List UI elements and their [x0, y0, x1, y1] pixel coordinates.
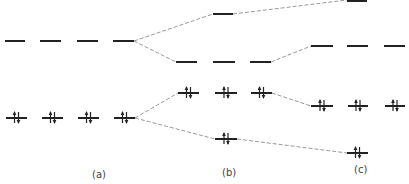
connector-line	[134, 41, 176, 62]
connector-line	[134, 14, 213, 41]
column-label-b: (b)	[222, 167, 236, 178]
arrow-head-icon	[391, 99, 395, 103]
connector-line	[272, 93, 311, 106]
connector-line	[271, 46, 311, 62]
arrow-head-icon	[121, 111, 125, 115]
arrow-head-icon	[358, 108, 362, 112]
arrow-head-icon	[125, 120, 129, 124]
connector-line	[233, 0, 347, 14]
arrow-head-icon	[222, 86, 226, 90]
arrow-head-icon	[13, 111, 17, 115]
arrow-head-icon	[354, 146, 358, 150]
electron-pairs	[13, 86, 399, 159]
arrow-head-icon	[226, 95, 230, 99]
arrow-head-icon	[395, 108, 399, 112]
column-label-c: (c)	[354, 164, 367, 175]
arrow-head-icon	[89, 120, 93, 124]
energy-levels	[5, 1, 405, 153]
arrow-head-icon	[322, 108, 326, 112]
arrow-head-icon	[185, 86, 189, 90]
arrow-head-icon	[358, 155, 362, 159]
connector-line	[135, 118, 215, 139]
arrow-head-icon	[318, 99, 322, 103]
arrow-head-icon	[17, 120, 21, 124]
connector-lines	[134, 0, 347, 153]
arrow-head-icon	[189, 95, 193, 99]
arrow-head-icon	[226, 141, 230, 145]
arrow-head-icon	[258, 86, 262, 90]
connector-line	[135, 93, 178, 118]
arrow-head-icon	[85, 111, 89, 115]
arrow-head-icon	[354, 99, 358, 103]
arrow-head-icon	[49, 111, 53, 115]
arrow-head-icon	[53, 120, 57, 124]
arrow-head-icon	[222, 132, 226, 136]
connector-line	[237, 139, 347, 153]
arrow-head-icon	[262, 95, 266, 99]
column-label-a: (a)	[92, 169, 106, 180]
orbital-splitting-diagram	[0, 0, 409, 184]
